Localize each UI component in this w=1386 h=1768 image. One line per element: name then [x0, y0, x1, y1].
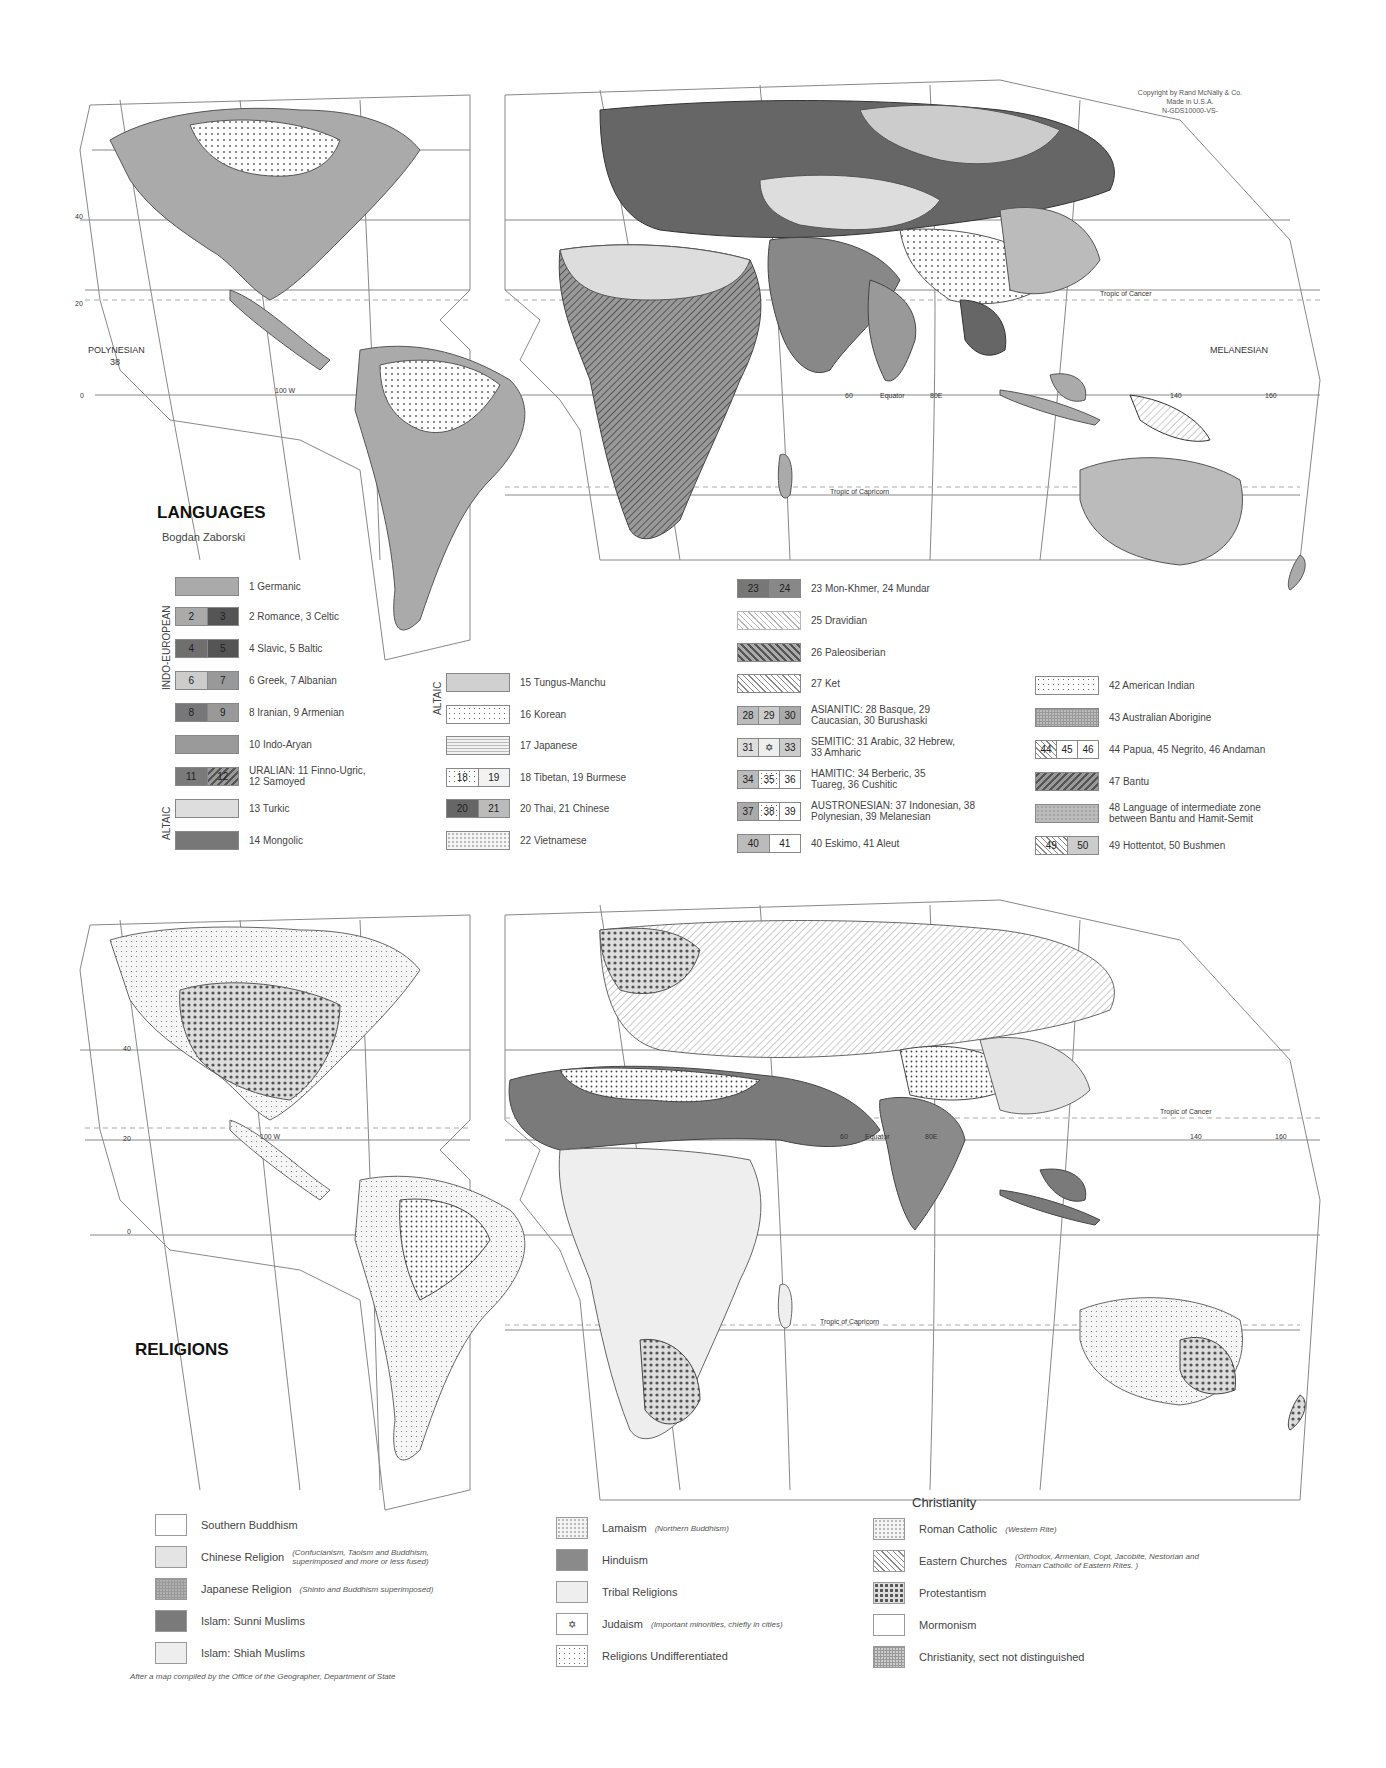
legend-label: Eastern Churches [919, 1555, 1007, 1567]
legend-label: Protestantism [919, 1587, 986, 1599]
christianity-heading: Christianity [912, 1495, 976, 1510]
legend-label: 26 Paleosiberian [811, 647, 886, 658]
star-of-david-icon: ✡ [556, 1613, 588, 1635]
source-footer: After a map compiled by the Office of th… [130, 1672, 395, 1681]
legend-swatch [737, 611, 801, 630]
legend-label: Christianity, sect not distinguished [919, 1651, 1085, 1663]
legend-swatch: 4950 [1035, 836, 1099, 855]
copyright-line: Copyright by Rand McNally & Co. [1120, 88, 1260, 97]
legend-label: Southern Buddhism [201, 1519, 298, 1531]
legend-label: Tribal Religions [602, 1586, 677, 1598]
legend-item: 22 Vietnamese [446, 829, 587, 851]
legend-group-altaic-1: ALTAIC [161, 806, 172, 840]
legend-item: Eastern Churches(Orthodox, Armenian, Cop… [873, 1550, 1215, 1572]
legend-label: 40 Eskimo, 41 Aleut [811, 838, 899, 849]
legend-swatch [1035, 708, 1099, 727]
legend-label: URALIAN: 11 Finno-Ugric, 12 Samoyed [249, 765, 379, 787]
legend-item: 16 Korean [446, 703, 566, 725]
legend-swatch [175, 735, 239, 754]
legend-swatch [556, 1581, 588, 1603]
legend-item: ✡Judaism(Important minorities, chiefly i… [556, 1613, 783, 1635]
legend-label: ASIANITIC: 28 Basque, 29 Caucasian, 30 B… [811, 704, 961, 726]
legend-label: Mormonism [919, 1619, 976, 1631]
map-label-melanesian: MELANESIAN [1210, 345, 1268, 355]
map-label-lat-0: 0 [127, 1228, 131, 1235]
legend-item: 495049 Hottentot, 50 Bushmen [1035, 834, 1225, 856]
legend-swatch [155, 1642, 187, 1664]
legend-swatch [873, 1646, 905, 1668]
languages-author: Bogdan Zaborski [162, 531, 245, 543]
legend-note: (Northern Buddhism) [655, 1524, 729, 1533]
legend-item: 15 Tungus-Manchu [446, 671, 606, 693]
legend-item: 14 Mongolic [175, 829, 303, 851]
map-label-lon-100w: 100 W [260, 1133, 280, 1140]
religions-title: RELIGIONS [135, 1340, 229, 1360]
legend-item: 202120 Thai, 21 Chinese [446, 797, 609, 819]
map-label-lon-160: 160 [1275, 1133, 1287, 1140]
map-label-equator: Equator [865, 1133, 890, 1140]
legend-swatch [155, 1578, 187, 1600]
legend-item: 47 Bantu [1035, 770, 1149, 792]
map-label-tropic-cancer: Tropic of Cancer [1100, 290, 1151, 297]
map-label-lat-40: 40 [75, 213, 83, 220]
legend-swatch: 444546 [1035, 740, 1099, 759]
legend-item: Religions Undifferentiated [556, 1645, 728, 1667]
legend-swatch [873, 1582, 905, 1604]
legend-note: (Shinto and Buddhism superimposed) [300, 1585, 434, 1594]
legend-swatch: 31✡33 [737, 738, 801, 757]
legend-swatch: 282930 [737, 706, 801, 725]
legend-label: 48 Language of intermediate zone between… [1109, 802, 1279, 824]
legend-swatch: 343536 [737, 770, 801, 789]
legend-swatch [175, 799, 239, 818]
map-label-lat-0: 0 [80, 392, 84, 399]
legend-label: 23 Mon-Khmer, 24 Mundar [811, 583, 930, 594]
legend-label: 17 Japanese [520, 740, 577, 751]
map-label-polynesian: POLYNESIAN [88, 345, 145, 355]
legend-label: 1 Germanic [249, 581, 301, 592]
legend-item: 31✡33SEMITIC: 31 Arabic, 32 Hebrew, 33 A… [737, 736, 961, 758]
map-label-polynesian-num: 38 [110, 357, 120, 367]
legend-label: 2 Romance, 3 Celtic [249, 611, 339, 622]
legend-item: 43 Australian Aborigine [1035, 706, 1211, 728]
legend-item: 10 Indo-Aryan [175, 733, 312, 755]
legend-swatch [155, 1546, 187, 1568]
legend-swatch [1035, 804, 1099, 823]
map-label-lat-40: 40 [123, 1045, 131, 1052]
legend-swatch: 1112 [175, 767, 239, 786]
legend-item: 343536HAMITIC: 34 Berberic, 35 Tuareg, 3… [737, 768, 961, 790]
legend-swatch: 4041 [737, 834, 801, 853]
map-label-lat-20: 20 [75, 300, 83, 307]
legend-label: Judaism [602, 1618, 643, 1630]
legend-label: 42 American Indian [1109, 680, 1195, 691]
map-label-lon-60: 60 [840, 1133, 848, 1140]
legend-label: Islam: Sunni Muslims [201, 1615, 305, 1627]
legend-swatch [446, 673, 510, 692]
map-label-lat-20: 20 [123, 1135, 131, 1142]
legend-item: 373839AUSTRONESIAN: 37 Indonesian, 38 Po… [737, 800, 981, 822]
legend-swatch [737, 674, 801, 693]
legend-label: Roman Catholic [919, 1523, 997, 1535]
legend-label: 27 Ket [811, 678, 840, 689]
legend-item: Japanese Religion(Shinto and Buddhism su… [155, 1578, 433, 1600]
legend-label: 25 Dravidian [811, 615, 867, 626]
legend-swatch: 373839 [737, 802, 801, 821]
legend-label: 8 Iranian, 9 Armenian [249, 707, 344, 718]
legend-swatch: 67 [175, 671, 239, 690]
legend-item: 42 American Indian [1035, 674, 1195, 696]
legend-swatch [556, 1549, 588, 1571]
legend-note: (Western Rite) [1005, 1525, 1056, 1534]
legend-item: Tribal Religions [556, 1581, 677, 1603]
legend-label: 16 Korean [520, 709, 566, 720]
legend-swatch: 45 [175, 639, 239, 658]
legend-swatch [446, 736, 510, 755]
legend-item: 25 Dravidian [737, 609, 867, 631]
legend-item: 676 Greek, 7 Albanian [175, 669, 337, 691]
legend-label: HAMITIC: 34 Berberic, 35 Tuareg, 36 Cush… [811, 768, 961, 790]
legend-swatch [446, 831, 510, 850]
legend-swatch [1035, 772, 1099, 791]
legend-item: 282930ASIANITIC: 28 Basque, 29 Caucasian… [737, 704, 961, 726]
legend-swatch [175, 831, 239, 850]
map-label-lon-80e: 80E [930, 392, 942, 399]
legend-swatch: 89 [175, 703, 239, 722]
legend-label: 18 Tibetan, 19 Burmese [520, 772, 626, 783]
